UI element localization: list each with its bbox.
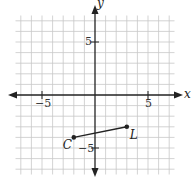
point-L bbox=[125, 125, 130, 130]
x-tick-label-neg5: −5 bbox=[35, 97, 51, 110]
y-tick-label-neg5: −5 bbox=[78, 142, 94, 155]
axes bbox=[8, 5, 183, 177]
x-axis-left-arrow-icon bbox=[8, 92, 17, 99]
point-label-L: L bbox=[129, 128, 138, 142]
y-tick-label-5: 5 bbox=[85, 35, 92, 48]
x-tick-label-5: 5 bbox=[145, 97, 152, 110]
segment-CL bbox=[74, 127, 127, 138]
point-C bbox=[72, 135, 77, 140]
coordinate-plane: x y −5 5 5 −5 CL bbox=[0, 0, 191, 178]
x-axis-right-arrow-icon bbox=[174, 92, 183, 99]
y-axis-label: y bbox=[96, 0, 104, 10]
point-label-C: C bbox=[63, 138, 72, 152]
y-axis-down-arrow-icon bbox=[92, 168, 99, 177]
x-axis-label: x bbox=[184, 87, 191, 101]
